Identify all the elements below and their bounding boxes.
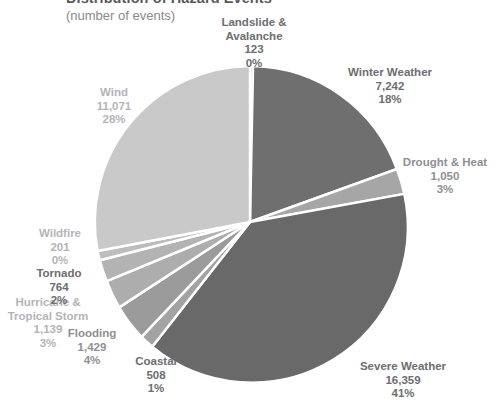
slice-label-severe-weather: Severe Weather 16,359 41% xyxy=(333,360,473,400)
slice-label-value: 16,359 xyxy=(333,374,473,388)
slice-label-percent: 4% xyxy=(51,354,133,368)
slice-label-value: 201 xyxy=(24,241,96,255)
slice-label-name: Drought & Heat xyxy=(395,156,495,170)
slice-label-name: Tornado xyxy=(21,267,97,281)
slice-label-percent: 2% xyxy=(21,294,97,308)
slice-label-name: Winter Weather xyxy=(325,66,455,80)
slice-label-value: 508 xyxy=(108,369,204,383)
slice-label-percent: 0% xyxy=(24,254,96,268)
slice-label-percent: 1% xyxy=(108,382,204,396)
slice-label-percent: 3% xyxy=(395,183,495,197)
slice-label-value: 11,071 xyxy=(78,100,150,114)
slice-label-wildfire: Wildfire 201 0% xyxy=(24,227,96,268)
slice-label-value: 1,050 xyxy=(395,170,495,184)
slice-label-wind: Wind 11,071 28% xyxy=(78,86,150,127)
slice-label-value: 7,242 xyxy=(325,80,455,94)
slice-label-name: Wildfire xyxy=(24,227,96,241)
slice-label-percent: 28% xyxy=(78,113,150,127)
slice-label-percent: 0% xyxy=(196,57,312,71)
slice-label-value: 1,139 xyxy=(0,323,100,337)
slice-label-percent: 3% xyxy=(0,337,100,351)
pie-chart-figure: Distribution of Hazard Events (number of… xyxy=(0,0,496,400)
slice-label-name-line2: Avalanche xyxy=(196,30,312,44)
slice-label-value: 764 xyxy=(21,281,97,295)
slice-label-name: Landslide & xyxy=(196,16,312,30)
slice-label-landslide-avalanche: Landslide & Avalanche 123 0% xyxy=(196,16,312,70)
slice-label-tornado: Tornado 764 2% xyxy=(21,267,97,308)
slice-label-name: Wind xyxy=(78,86,150,100)
slice-label-percent: 41% xyxy=(333,387,473,400)
slice-label-percent: 18% xyxy=(325,93,455,107)
slice-label-value: 123 xyxy=(196,43,312,57)
slice-label-name: Severe Weather xyxy=(333,360,473,374)
slice-label-drought-heat: Drought & Heat 1,050 3% xyxy=(395,156,495,197)
slice-label-winter-weather: Winter Weather 7,242 18% xyxy=(325,66,455,107)
slice-label-name-line2: Tropical Storm xyxy=(0,310,100,324)
